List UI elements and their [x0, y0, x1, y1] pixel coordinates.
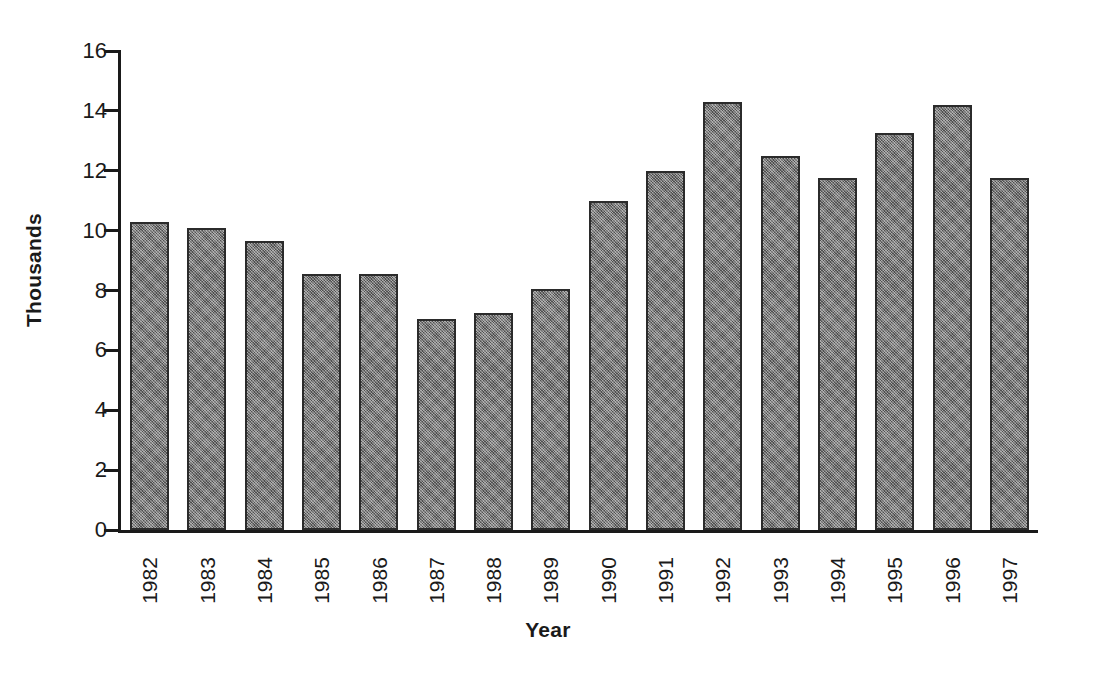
- x-axis-tick-label-text: 1993: [770, 557, 791, 604]
- plot-area: [118, 51, 1038, 530]
- bar: [474, 313, 513, 530]
- x-axis-tick-label-text: 1994: [827, 557, 848, 604]
- bar: [761, 156, 800, 530]
- y-axis-tick-label: 2: [55, 459, 107, 481]
- bar-series: [121, 51, 1038, 530]
- bar: [130, 222, 169, 530]
- y-axis-tick-label: 4: [55, 399, 107, 421]
- bar: [933, 105, 972, 530]
- x-axis-tick-label-text: 1983: [196, 557, 217, 604]
- bar: [875, 133, 914, 530]
- x-axis-tick-label-text: 1990: [598, 557, 619, 604]
- x-axis-tick-label-text: 1985: [311, 557, 332, 604]
- x-axis-tick-label-text: 1987: [426, 557, 447, 604]
- x-axis-tick-label-text: 1992: [712, 557, 733, 604]
- y-axis-tick-label: 16: [55, 40, 107, 62]
- x-axis-title: Year: [0, 618, 1096, 642]
- y-axis-tick-label: 6: [55, 339, 107, 361]
- y-axis-tick-labels: 0246810121416: [55, 0, 107, 560]
- x-axis-tick-label-text: 1997: [999, 557, 1020, 604]
- x-axis-tick-labels: 1982198319841985198619871988198919901991…: [121, 534, 1038, 606]
- y-axis-tick-label: 12: [55, 160, 107, 182]
- bar: [531, 289, 570, 530]
- x-axis-line: [118, 530, 1038, 533]
- bar: [589, 201, 628, 530]
- y-axis-tick-label: 14: [55, 100, 107, 122]
- x-axis-tick-label-text: 1996: [942, 557, 963, 604]
- x-axis-tick-label-text: 1986: [368, 557, 389, 604]
- x-axis-tick-label-text: 1989: [540, 557, 561, 604]
- y-axis-title: Thousands: [14, 0, 54, 540]
- y-axis-tick-mark: [104, 169, 121, 172]
- x-axis-tick-label-text: 1991: [655, 557, 676, 604]
- x-axis-title-text: Year: [525, 618, 571, 641]
- y-axis-tick-mark: [104, 109, 121, 112]
- bar: [703, 102, 742, 530]
- y-axis-tick-mark: [104, 469, 121, 472]
- y-axis-tick-mark: [104, 229, 121, 232]
- bar: [818, 178, 857, 530]
- bar: [302, 274, 341, 530]
- x-axis-tick-label: 1997: [973, 534, 1045, 606]
- y-axis-tick-label: 8: [55, 280, 107, 302]
- x-axis-tick-label-text: 1995: [884, 557, 905, 604]
- bar: [990, 178, 1029, 530]
- y-axis-title-text: Thousands: [22, 213, 46, 327]
- y-axis-tick-mark: [104, 50, 121, 53]
- y-axis-tick-mark: [104, 289, 121, 292]
- y-axis-tick-label: 10: [55, 220, 107, 242]
- x-axis-tick-label-text: 1984: [254, 557, 275, 604]
- y-axis-tick-mark: [104, 349, 121, 352]
- bar: [646, 171, 685, 530]
- bar: [245, 241, 284, 530]
- bar: [417, 319, 456, 530]
- x-axis-tick-label-text: 1988: [483, 557, 504, 604]
- x-axis-tick-label-text: 1982: [139, 557, 160, 604]
- bar: [359, 274, 398, 530]
- bar: [187, 228, 226, 530]
- y-axis-tick-mark: [104, 409, 121, 412]
- y-axis-tick-label: 0: [55, 519, 107, 541]
- bar-chart: Thousands 0246810121416 1982198319841985…: [0, 0, 1096, 677]
- y-axis-tick-mark: [104, 529, 121, 532]
